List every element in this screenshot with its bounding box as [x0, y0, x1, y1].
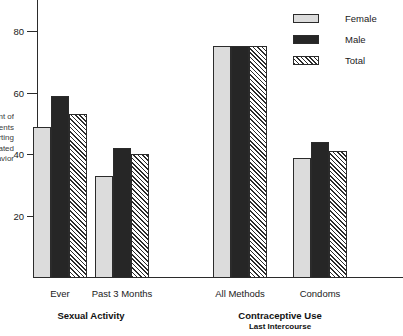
category-label-past-3-months: Past 3 Months — [92, 288, 153, 299]
y-tick-label: 80 — [13, 25, 24, 36]
bar-male-all-methods — [231, 46, 249, 278]
swatch-male-icon — [293, 35, 319, 44]
group-label-contraceptive-use: Contraceptive Use — [238, 310, 321, 321]
legend-item-female: Female — [293, 8, 401, 29]
legend-item-total: Total — [293, 50, 401, 71]
bar-total-all-methods — [249, 46, 267, 278]
bar-male-condoms — [311, 142, 329, 278]
y-tick-mark — [27, 31, 37, 32]
legend-label: Total — [345, 55, 365, 66]
bar-male-ever — [51, 96, 69, 278]
legend-label: Male — [345, 34, 366, 45]
category-label-all-methods: All Methods — [215, 288, 265, 299]
legend-label: Female — [345, 13, 377, 24]
bar-total-past-3-months — [131, 154, 149, 278]
group-sublabel-last-intercourse: Last Intercourse — [249, 322, 311, 331]
bar-male-past-3-months — [113, 148, 131, 278]
group-label-sexual-activity: Sexual Activity — [57, 310, 124, 321]
chart-legend: FemaleMaleTotal — [293, 8, 401, 71]
y-axis-title: Percent of Adolescents Reporting Indicat… — [0, 112, 14, 165]
bar-female-ever — [33, 127, 51, 278]
bar-total-ever — [69, 114, 87, 278]
bar-total-condoms — [329, 151, 347, 278]
y-tick-label: 40 — [13, 149, 24, 160]
bar-female-all-methods — [213, 46, 231, 278]
y-tick-mark — [27, 93, 37, 94]
legend-item-male: Male — [293, 29, 401, 50]
category-label-condoms: Condoms — [300, 288, 341, 299]
y-tick-label: 60 — [13, 87, 24, 98]
bar-female-condoms — [293, 158, 311, 278]
bar-chart-figure: Percent of Adolescents Reporting Indicat… — [0, 0, 403, 336]
swatch-female-icon — [293, 14, 319, 23]
y-tick-label: 20 — [13, 211, 24, 222]
category-label-ever: Ever — [50, 288, 70, 299]
swatch-total-icon — [293, 56, 319, 65]
bar-female-past-3-months — [95, 176, 113, 278]
